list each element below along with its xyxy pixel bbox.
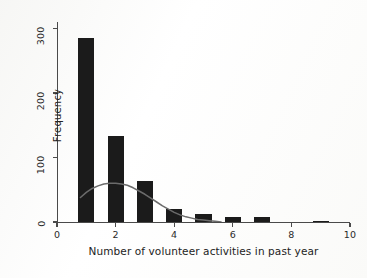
x-tick-label: 8 xyxy=(288,229,294,240)
x-axis-line xyxy=(57,222,350,223)
x-tick-label: 10 xyxy=(344,229,357,240)
x-tick-mark xyxy=(291,223,292,227)
histogram-bar xyxy=(108,136,124,222)
x-tick-mark xyxy=(174,223,175,227)
histogram-bar xyxy=(166,209,182,222)
histogram-bar xyxy=(313,221,329,222)
x-axis-title: Number of volunteer activities in past y… xyxy=(57,245,350,257)
histogram-bar xyxy=(78,38,94,222)
x-tick-label: 4 xyxy=(171,229,177,240)
histogram-bar xyxy=(195,214,211,222)
y-axis-title: Frequency xyxy=(52,76,63,156)
x-tick-mark xyxy=(232,223,233,227)
bars-layer xyxy=(57,22,350,222)
x-tick-label: 6 xyxy=(230,229,236,240)
histogram-bar xyxy=(254,217,270,222)
y-tick-label: 200 xyxy=(36,91,47,110)
y-tick-label: 0 xyxy=(36,221,47,227)
x-tick-label: 0 xyxy=(54,229,60,240)
histogram-bar xyxy=(225,217,241,222)
y-tick-label: 300 xyxy=(36,27,47,46)
x-tick-mark xyxy=(349,223,350,227)
histogram-figure: 0100200300 0246810 Frequency Number of v… xyxy=(0,0,367,278)
x-tick-mark xyxy=(115,223,116,227)
plot-area: 0100200300 0246810 Frequency Number of v… xyxy=(57,22,350,222)
y-tick-label: 100 xyxy=(36,156,47,175)
histogram-bar xyxy=(137,181,153,222)
x-tick-mark xyxy=(56,223,57,227)
x-tick-label: 2 xyxy=(112,229,118,240)
